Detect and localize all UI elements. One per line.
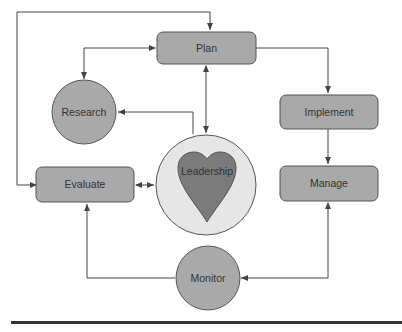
node-monitor: Monitor (176, 246, 240, 310)
edge-manage-monitor (241, 203, 328, 278)
node-manage: Manage (280, 166, 378, 201)
node-monitor-label: Monitor (190, 272, 226, 284)
edge-plan-research (84, 48, 155, 79)
bottom-rule (11, 321, 402, 324)
leadership-cycle-diagram: Plan Research Implement Leadership Evalu… (0, 0, 402, 332)
node-plan: Plan (157, 32, 256, 64)
edge-leadership-research (118, 112, 193, 134)
node-leadership-label: Leadership (181, 165, 233, 177)
node-research-label: Research (62, 106, 107, 118)
edge-plan-implement (256, 48, 328, 93)
edge-monitor-evaluate (87, 204, 175, 278)
node-manage-label: Manage (310, 177, 348, 189)
node-evaluate-label: Evaluate (65, 178, 106, 190)
node-research: Research (52, 80, 116, 144)
node-plan-label: Plan (196, 42, 217, 54)
node-evaluate: Evaluate (36, 167, 134, 202)
node-leadership: Leadership (156, 135, 256, 235)
node-implement-label: Implement (304, 106, 353, 118)
node-implement: Implement (280, 95, 378, 129)
